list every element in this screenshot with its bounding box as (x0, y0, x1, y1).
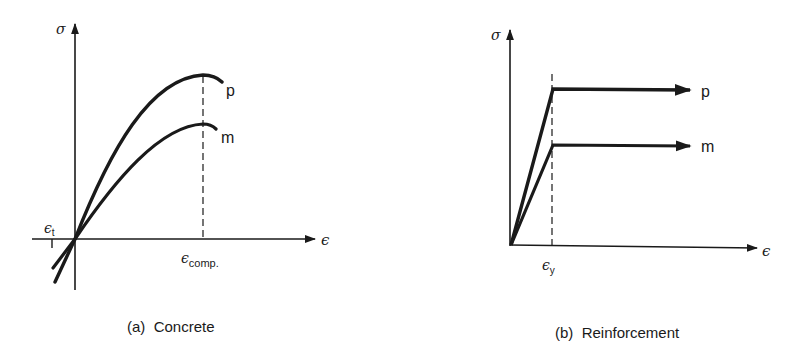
curve-label-m: m (221, 129, 234, 146)
curve-label-p: p (226, 82, 235, 99)
concrete-curve-m (53, 124, 216, 268)
sigma-axis-label: σ (491, 27, 501, 43)
epsilon-axis-label: ϵ (321, 231, 330, 249)
stress-strain-figure: σ ϵ ϵt ϵcomp. p m (a) Concrete σ ϵ ϵy (0, 0, 798, 357)
curve-label-m: m (701, 138, 714, 155)
reinforcement-curve-p (511, 89, 690, 245)
reinforcement-curve-m (511, 145, 690, 245)
epsilon-axis-label: ϵ (762, 242, 771, 260)
curve-label-p: p (701, 83, 710, 100)
concrete-curve-p (55, 75, 222, 282)
caption-reinforcement: (b) Reinforcement (555, 324, 680, 341)
epsilon-axis (510, 245, 757, 248)
caption-concrete: (a) Concrete (127, 318, 215, 335)
compression-strain-label: ϵcomp. (181, 250, 219, 269)
tension-strain-label: ϵt (44, 220, 55, 238)
sigma-axis-label: σ (56, 21, 66, 37)
yield-strain-label: ϵy (542, 257, 555, 276)
panel-reinforcement: σ ϵ ϵy p m (b) Reinforcement (491, 27, 771, 341)
panel-concrete: σ ϵ ϵt ϵcomp. p m (a) Concrete (32, 21, 330, 335)
